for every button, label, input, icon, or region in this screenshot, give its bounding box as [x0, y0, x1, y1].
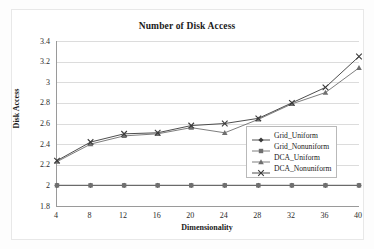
y-tick-label: 2.6	[20, 119, 50, 128]
y-tick-label: 3.2	[20, 57, 50, 66]
legend-label: DCA_Uniform	[274, 153, 320, 163]
data-point	[290, 183, 294, 187]
data-point	[189, 183, 193, 187]
chart-title: Number of Disk Access	[0, 21, 374, 31]
series-grid-nonuniform	[55, 183, 361, 187]
data-point	[323, 85, 329, 91]
legend-label: Grid_Uniform	[274, 131, 318, 141]
series-layer	[57, 41, 359, 206]
chart-legend: Grid_UniformGrid_NonuniformDCA_UniformDC…	[246, 126, 337, 178]
legend-marker-icon	[251, 142, 271, 152]
x-tick-label: 20	[177, 211, 203, 220]
legend-marker-icon	[251, 131, 271, 141]
plot-area	[56, 41, 359, 207]
y-tick-label: 2	[20, 181, 50, 190]
legend-item-grid-uniform[interactable]: Grid_Uniform	[251, 130, 331, 141]
x-axis-title: Dimensionality	[56, 223, 358, 232]
data-point	[55, 183, 59, 187]
x-tick-label: 24	[211, 211, 237, 220]
legend-item-dca-uniform[interactable]: DCA_Uniform	[251, 152, 331, 163]
legend-marker-icon	[251, 164, 271, 174]
data-point	[223, 183, 227, 187]
x-tick-label: 8	[77, 211, 103, 220]
data-point	[256, 183, 260, 187]
legend-item-dca-nonuniform[interactable]: DCA_Nonuniform	[251, 163, 331, 174]
x-tick-label: 4	[43, 211, 69, 220]
data-point	[357, 183, 361, 187]
x-tick-label: 16	[144, 211, 170, 220]
y-tick-label: 2.2	[20, 160, 50, 169]
chart-canvas: Number of Disk Access 3.43.232.82.62.42.…	[0, 0, 374, 249]
legend-label: Grid_Nonuniform	[274, 142, 329, 152]
x-tick-label: 12	[110, 211, 136, 220]
x-tick-label: 28	[244, 211, 270, 220]
x-tick-label: 32	[278, 211, 304, 220]
data-point	[122, 183, 126, 187]
legend-item-grid-nonuniform[interactable]: Grid_Nonuniform	[251, 141, 331, 152]
legend-label: DCA_Nonuniform	[274, 164, 331, 174]
y-tick-label: 3.4	[20, 37, 50, 46]
y-tick-label: 2.4	[20, 140, 50, 149]
x-tick-label: 40	[345, 211, 371, 220]
y-tick-label: 1.8	[20, 202, 50, 211]
y-axis-title: Disk Access	[12, 74, 21, 144]
data-point	[155, 183, 159, 187]
legend-marker-icon	[251, 153, 271, 163]
y-tick-label: 3	[20, 78, 50, 87]
data-point	[88, 183, 92, 187]
y-tick-label: 2.8	[20, 98, 50, 107]
data-point	[323, 90, 329, 95]
x-tick-label: 36	[311, 211, 337, 220]
data-point	[323, 183, 327, 187]
